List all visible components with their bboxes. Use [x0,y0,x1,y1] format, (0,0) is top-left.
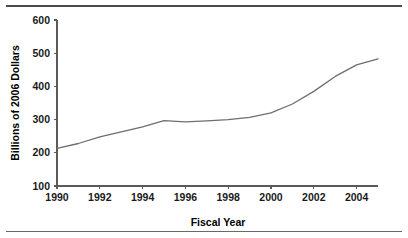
y-tick-label: 500 [32,47,50,59]
x-tick-label: 2000 [259,191,283,203]
data-line-outlays [57,59,378,149]
x-axis-title: Fiscal Year [191,216,246,228]
x-tick-label: 1990 [45,191,69,203]
x-tick-label: 1998 [217,191,241,203]
y-tick-label: 300 [32,113,50,125]
y-axis-title: Billions of 2006 Dollars [9,45,21,161]
y-axis-ticks: 100200300400500600 [32,14,57,192]
y-axis: 100200300400500600 [32,14,57,192]
x-axis: 19901992199419961998200020022004 [45,186,378,203]
y-tick-label: 100 [32,180,50,192]
x-tick-label: 2002 [302,191,326,203]
x-tick-label: 1992 [88,191,112,203]
x-tick-label: 1996 [174,191,198,203]
x-tick-label: 1994 [131,191,155,203]
y-tick-label: 400 [32,80,50,92]
y-tick-label: 200 [32,146,50,158]
chart-figure: 100200300400500600 199019921994199619982… [0,0,408,238]
x-tick-label: 2004 [345,191,369,203]
y-tick-label: 600 [32,14,50,26]
x-axis-ticks: 19901992199419961998200020022004 [45,186,368,203]
series-layer [57,59,378,149]
line-chart-plot: 100200300400500600 199019921994199619982… [0,0,408,238]
